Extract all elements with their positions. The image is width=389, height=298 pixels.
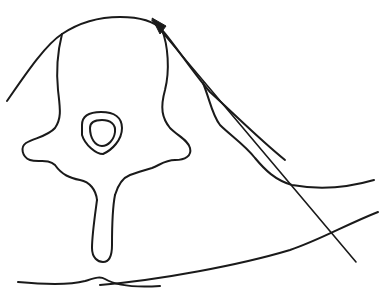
vertebra-diagram	[0, 0, 389, 298]
diagram-canvas	[0, 0, 389, 298]
upper-body-contour	[7, 17, 285, 160]
lateral-body-contour	[100, 212, 378, 285]
posterior-skin-line	[18, 278, 160, 287]
spinous-process	[92, 195, 115, 262]
lateral-muscle-contour	[203, 83, 374, 187]
trajectory-arrow-line	[152, 20, 356, 262]
vertebral-body-outline-right	[115, 30, 190, 195]
spinal-canal-outer-ring	[82, 112, 122, 154]
spinal-canal-inner-ring	[90, 120, 115, 146]
